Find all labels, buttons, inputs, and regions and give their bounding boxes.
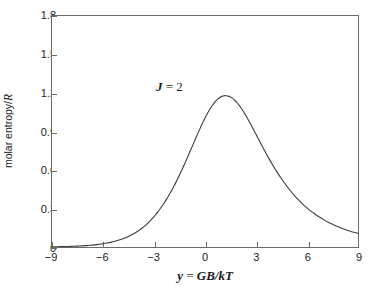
- annotation-equals: =: [163, 79, 177, 94]
- y-axis-title-text: molar entropy/: [2, 101, 14, 168]
- y-axis-title: molar entropy/R: [2, 94, 14, 168]
- y-axis-title-symbol: R: [2, 94, 14, 101]
- x-tick-label: 6: [305, 251, 311, 263]
- x-axis-title-equals: =: [183, 268, 197, 283]
- annotation-number: 2: [176, 79, 183, 94]
- annotation-j-value: J = 2: [156, 79, 183, 95]
- data-series-line: [52, 96, 358, 247]
- x-tick-label: 3: [253, 251, 259, 263]
- x-tick-label: 0: [202, 251, 208, 263]
- entropy-curve-svg: [52, 16, 358, 247]
- x-tick-label: −3: [147, 251, 160, 263]
- chart-figure: molar entropy/R 1.8 1.5 1.2 0.9 0.6 0.3 …: [0, 0, 370, 292]
- plot-area: J = 2: [51, 15, 359, 248]
- x-axis-title: y = GB/kT: [51, 268, 359, 284]
- x-tick-label: −6: [96, 251, 109, 263]
- x-tick-label: −9: [45, 251, 58, 263]
- x-tick-mark: [358, 242, 359, 247]
- x-tick-label: 9: [356, 251, 362, 263]
- y-tick-mark: [52, 248, 57, 249]
- x-axis-title-expr: GB/kT: [197, 268, 233, 283]
